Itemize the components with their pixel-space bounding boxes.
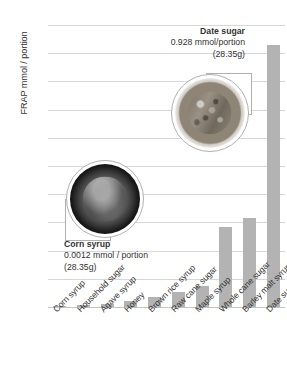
date-sugar-photo-callout <box>171 74 249 152</box>
date-sugar-annotation: Date sugar 0.928 mmol/portion (28.35g) <box>95 26 245 60</box>
date-sugar-annotation-value: 0.928 mmol/portion <box>95 37 245 48</box>
corn-syrup-annotation: Corn syrup 0.0012 mmol / portion (28.35g… <box>64 239 194 273</box>
gridline <box>48 138 285 139</box>
corn-syrup-annotation-title: Corn syrup <box>64 239 194 250</box>
callout-disc <box>171 74 249 152</box>
date-sugar-annotation-title: Date sugar <box>95 26 245 37</box>
corn-syrup-surface <box>83 177 128 222</box>
date-sugar-annotation-portion: (28.35g) <box>95 49 245 60</box>
frap-bar-chart: FRAP mmol / portion 00.10.20.30.40.50.60… <box>0 0 287 380</box>
corn-syrup-annotation-value: 0.0012 mmol / portion <box>64 250 194 261</box>
corn-syrup-photo-callout <box>66 160 144 238</box>
x-axis-category-labels: Corn syrupHousehold sugarAgave syrupHone… <box>48 307 285 380</box>
callout-disc <box>66 160 144 238</box>
bowl-of-corn-syrup-image <box>70 164 140 234</box>
corn-syrup-annotation-portion: (28.35g) <box>64 262 194 273</box>
bowl-of-date-sugar-image <box>175 78 245 148</box>
y-axis-title: FRAP mmol / portion <box>19 3 29 143</box>
date-sugar-granules <box>188 91 231 134</box>
